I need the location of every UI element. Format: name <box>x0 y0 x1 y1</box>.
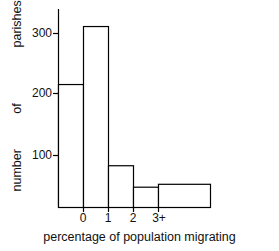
x-axis-ticks <box>84 208 159 213</box>
histogram-bar <box>84 27 109 208</box>
histogram-bars <box>59 27 211 208</box>
histogram-figure: parishes of number 300 200 100 0 1 2 3+ <box>0 0 279 251</box>
histogram-bar <box>59 85 84 208</box>
histogram-bar <box>134 187 159 207</box>
plot-area <box>0 0 279 251</box>
x-axis-label: percentage of population migrating <box>0 230 279 244</box>
histogram-bar <box>159 184 211 207</box>
y-axis-ticks <box>53 34 59 156</box>
histogram-bar <box>109 166 134 208</box>
